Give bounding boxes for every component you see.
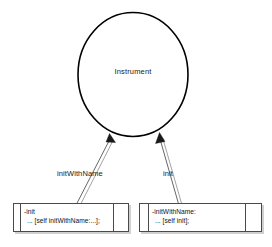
method-box-initwithname[interactable]: -initWithName: ... [self init]; — [139, 203, 262, 232]
edge-initwithname-arrowhead — [106, 134, 116, 143]
method-box-body: -initWithName: ... [self init]; — [149, 204, 245, 231]
method-box-init[interactable]: -init ... [self initWithName:...]; — [13, 203, 129, 232]
method-body: ... [self init]; — [152, 216, 243, 225]
edge-init-arrowhead — [156, 133, 166, 144]
edge-label-initwithname: initWithName — [57, 169, 103, 178]
method-box-body: -init ... [self initWithName:...]; — [21, 204, 113, 231]
method-signature: -init — [24, 207, 111, 216]
method-box-right-compartment — [113, 204, 128, 231]
uml-diagram-canvas: Instrument initWithName init -init ... [… — [0, 0, 272, 247]
method-signature: -initWithName: — [152, 207, 243, 216]
method-box-left-compartment — [14, 204, 21, 231]
method-box-left-compartment — [140, 204, 149, 231]
class-node-label: Instrument — [78, 67, 188, 76]
edge-label-init: init — [163, 169, 173, 178]
method-box-right-compartment — [245, 204, 261, 231]
method-body: ... [self initWithName:...]; — [24, 216, 111, 225]
